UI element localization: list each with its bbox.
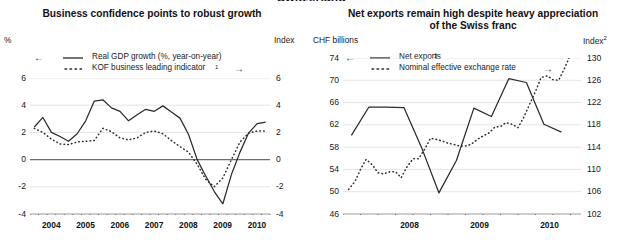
- y-tick-label-right: 2: [276, 127, 281, 137]
- y-tick-label-left: 62: [317, 119, 339, 129]
- left-legend-series2-label: KOF business leading indicator: [92, 63, 205, 72]
- y-tick-label-right: -4: [276, 209, 284, 219]
- left-chart-left-unit: %: [4, 35, 11, 45]
- y-tick-label-right: 6: [276, 73, 281, 83]
- left-chart-plot: [30, 78, 271, 215]
- right-chart-plot: [343, 58, 582, 215]
- y-tick-label-right: 102: [587, 209, 601, 219]
- y-tick-label-left: 2: [4, 127, 26, 137]
- figure-page: Switzerland Business confidence points t…: [0, 0, 623, 245]
- y-tick-label-left: 66: [317, 97, 339, 107]
- x-tick-label: 2010: [237, 220, 277, 230]
- y-tick-label-right: 114: [587, 142, 601, 152]
- y-tick-label-left: 4: [4, 100, 26, 110]
- y-tick-label-left: 46: [317, 209, 339, 219]
- y-tick-label-left: 70: [317, 75, 339, 85]
- series-line-1: [34, 100, 265, 204]
- y-tick-label-right: 130: [587, 53, 601, 63]
- left-chart-right-unit: Index: [274, 35, 295, 45]
- legend-solid-line-swatch: [62, 52, 84, 63]
- left-axis-arrow-icon: ←: [34, 53, 44, 63]
- chart-panel-business-confidence: Business confidence points to robust gro…: [0, 0, 311, 245]
- y-tick-label-left: 50: [317, 186, 339, 196]
- right-chart-left-unit: CHF billions: [313, 35, 358, 45]
- left-chart-title: Business confidence points to robust gro…: [0, 8, 276, 20]
- right-chart-right-unit-wrap: Index2: [583, 35, 607, 46]
- y-tick-label-right: 126: [587, 75, 601, 85]
- y-tick-label-left: 6: [4, 73, 26, 83]
- y-tick-label-right: 122: [587, 97, 601, 107]
- y-tick-label-right: 110: [587, 164, 601, 174]
- left-legend-series1-label: Real GDP growth (%, year-on-year): [92, 52, 222, 61]
- x-tick-label: 2010: [530, 220, 570, 230]
- y-tick-label-right: 4: [276, 100, 281, 110]
- y-tick-label-left: -4: [4, 209, 26, 219]
- right-chart-right-unit: Index: [583, 36, 604, 46]
- left-legend-series2-footnote: 1: [215, 64, 218, 70]
- y-tick-label-right: 0: [276, 154, 281, 164]
- plot-canvas: [30, 78, 271, 215]
- y-tick-label-right: 106: [587, 186, 601, 196]
- right-chart-right-unit-footnote: 2: [604, 35, 607, 41]
- y-tick-label-left: 54: [317, 164, 339, 174]
- y-tick-label-right: -2: [276, 181, 284, 191]
- y-tick-label-left: -2: [4, 181, 26, 191]
- right-chart-title: Net exports remain high despite heavy ap…: [311, 8, 599, 31]
- right-axis-arrow-icon: →: [234, 64, 244, 74]
- y-tick-label-right: 118: [587, 119, 601, 129]
- x-tick-label: 2008: [390, 220, 430, 230]
- legend-dotted-line-swatch: [64, 63, 86, 74]
- plot-canvas: [343, 58, 582, 215]
- y-tick-label-left: 74: [317, 53, 339, 63]
- y-tick-label-left: 0: [4, 154, 26, 164]
- x-tick-label: 2009: [460, 220, 500, 230]
- series-line-1: [351, 79, 561, 193]
- y-tick-label-left: 58: [317, 142, 339, 152]
- chart-panel-net-exports: Net exports remain high despite heavy ap…: [311, 0, 623, 245]
